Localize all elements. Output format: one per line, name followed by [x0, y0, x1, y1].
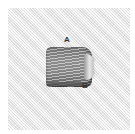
stitch-shadow-edge: [48, 82, 84, 86]
label-b: B: [82, 82, 88, 90]
stitch-curl-edge: [84, 54, 93, 80]
label-a: A: [64, 36, 70, 44]
